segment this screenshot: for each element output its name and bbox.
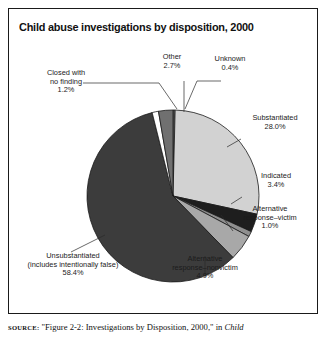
source-text: "Figure 2-2: Investigations by Dispositi… bbox=[39, 322, 224, 332]
source-italic-title: Child bbox=[225, 322, 244, 332]
closed-percent: 1.2% bbox=[23, 86, 109, 95]
source-note: SOURCE: "Figure 2-2: Investigations by D… bbox=[8, 322, 320, 333]
label-indicated: Indicated 3.4% bbox=[245, 172, 307, 189]
label-alt-response-nonvictim: Alternative response–nonvictim 4.9% bbox=[149, 255, 261, 281]
label-closed-with-no-finding: Closed with no finding 1.2% bbox=[23, 69, 109, 95]
alt-nonvictim-percent: 4.9% bbox=[149, 272, 261, 281]
other-percent: 2.7% bbox=[145, 62, 199, 71]
source-label: SOURCE: bbox=[8, 324, 39, 331]
substantiated-percent: 28.0% bbox=[239, 123, 311, 132]
label-unsubstantiated: Unsubstantiated (includes intentionally … bbox=[11, 252, 135, 278]
unknown-percent: 0.4% bbox=[201, 64, 259, 73]
leader-unknown bbox=[185, 81, 221, 109]
alt-victim-percent: 1.0% bbox=[229, 222, 311, 231]
label-substantiated: Substantiated 28.0% bbox=[239, 114, 311, 131]
label-unknown: Unknown 0.4% bbox=[201, 55, 259, 72]
figure-box: Child abuse investigations by dispositio… bbox=[8, 8, 318, 314]
running-head bbox=[8, 0, 128, 7]
leader-unsubstantiated bbox=[71, 235, 105, 252]
label-alt-response-victim: Alternative response–victim 1.0% bbox=[229, 205, 311, 231]
unsub-percent: 58.4% bbox=[11, 269, 135, 278]
label-other: Other 2.7% bbox=[145, 53, 199, 70]
indicated-percent: 3.4% bbox=[245, 181, 307, 190]
